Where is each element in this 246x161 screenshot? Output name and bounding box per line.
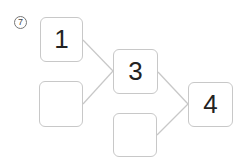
box-result: 4 <box>188 82 233 127</box>
box-bottom-middle-blank[interactable] <box>113 113 157 157</box>
box-bottom-left-blank[interactable] <box>39 81 83 127</box>
box-top-left: 1 <box>40 17 83 62</box>
box-middle: 3 <box>113 49 158 94</box>
